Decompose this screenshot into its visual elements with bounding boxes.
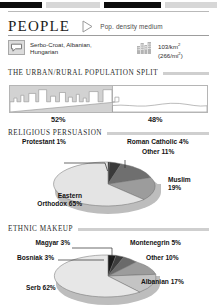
title-underline-rule [8, 35, 209, 36]
religion-label-eastern-orthodox: EasternOrthodox 65% [18, 192, 82, 208]
urban-percent-label: 52% [51, 115, 66, 124]
rural-percent-label: 48% [148, 115, 163, 124]
city-buildings-icon [136, 40, 153, 55]
density-fact-text: 103/km2 (266/mi2) [158, 40, 183, 60]
section-title-urban-rural: THE URBAN/RURAL POPULATION SPLIT [8, 69, 158, 77]
ethnic-pie-chart: Magyar 3% Bosniak 3% Montenegrin 5% Othe… [0, 236, 217, 306]
religion-label-muslim: Muslim19% [168, 176, 191, 192]
religion-pie-chart: Protestant 1% Roman Catholic 4% Other 11… [0, 140, 217, 218]
ethnic-label-serb: Serb 62% [26, 284, 56, 292]
page-title-row: PEOPLE Pop. density medium [8, 17, 209, 35]
language-fact-text: Serbo-Croat, Albanian, Hungarian [30, 40, 92, 56]
section-title-ethnic: ETHNIC MAKEUP [8, 225, 73, 233]
section-title-religion: RELIGIOUS PERSUASION [8, 129, 102, 137]
people-infographic-page: PEOPLE Pop. density medium Serbo-Croat, … [0, 0, 217, 306]
triangle-right-icon [82, 20, 93, 33]
density-fact: 103/km2 (266/mi2) [136, 40, 183, 60]
ethnic-label-montenegrin: Montenegrin 5% [130, 239, 181, 247]
section-rule [78, 228, 209, 231]
density-line-1: 103/km2 [158, 41, 183, 50]
top-decorative-bar [0, 2, 217, 8]
density-exponent: 2 [178, 42, 180, 47]
section-head-urban-rural: THE URBAN/RURAL POPULATION SPLIT [8, 68, 209, 78]
urban-rural-chart [9, 85, 208, 113]
density-alt-value: (266/mi [158, 52, 178, 59]
religion-label-roman-catholic: Roman Catholic 4% [127, 138, 189, 146]
language-line-1: Serbo-Croat, Albanian, [30, 41, 92, 48]
section-rule [163, 72, 209, 75]
religion-label-protestant: Protestant 1% [22, 138, 66, 146]
density-alt-close: ) [181, 52, 183, 59]
ethnic-label-bosniak: Bosniak 3% [8, 254, 54, 262]
page-title: PEOPLE [8, 18, 70, 35]
urban-rural-silhouette [10, 86, 207, 112]
speech-bubble-icon [8, 40, 25, 55]
language-fact: Serbo-Croat, Albanian, Hungarian [8, 40, 92, 56]
section-rule [107, 132, 209, 135]
urban-rural-labels: 52% 48% [9, 115, 208, 125]
density-line-2: (266/mi2) [158, 50, 183, 59]
religion-label-other: Other 11% [142, 148, 174, 156]
section-head-religion: RELIGIOUS PERSUASION [8, 128, 209, 138]
ethnic-label-other: Other 10% [146, 254, 179, 262]
density-value: 103/km [158, 43, 178, 50]
section-head-ethnic: ETHNIC MAKEUP [8, 224, 209, 234]
ethnic-label-magyar: Magyar 3% [20, 239, 70, 247]
ethnic-label-albanian: Albanian 17% [141, 278, 184, 286]
pop-density-note: Pop. density medium [100, 23, 163, 30]
language-line-2: Hungarian [30, 48, 92, 55]
top-hairline-rule [8, 11, 209, 12]
key-facts-row: Serbo-Croat, Albanian, Hungarian [8, 40, 209, 60]
